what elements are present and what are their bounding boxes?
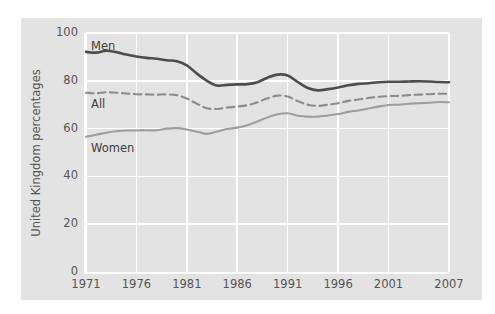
x-axis-line: [84, 272, 449, 274]
series-line-women: [86, 102, 449, 137]
series-line-all: [86, 92, 449, 109]
series-label-women: Women: [91, 143, 134, 155]
y-tick-20: 20: [44, 218, 78, 230]
y-tick-100: 100: [44, 27, 78, 39]
y-tick-40: 40: [44, 170, 78, 182]
plot-area: Men All Women: [86, 33, 449, 272]
y-tick-0: 0: [44, 266, 78, 278]
series-label-all: All: [91, 99, 105, 111]
x-tick-2007: 2007: [419, 279, 479, 291]
chart-figure: United Kingdom percentages 100806040200 …: [0, 0, 495, 314]
y-tick-60: 60: [44, 123, 78, 135]
y-tick-80: 80: [44, 75, 78, 87]
y-axis-label-container: United Kingdom percentages: [38, 33, 52, 272]
data-series-layer: [86, 33, 449, 272]
series-line-men: [86, 51, 449, 91]
series-label-men: Men: [91, 41, 115, 53]
x-tick-2001: 2001: [359, 279, 419, 291]
y-axis-label: United Kingdom percentages: [29, 69, 43, 236]
